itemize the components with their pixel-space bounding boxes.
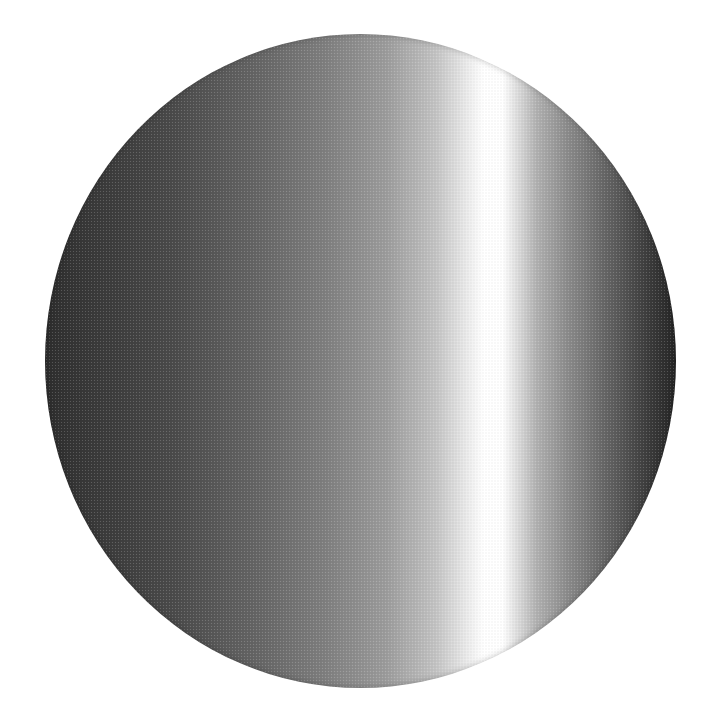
disc-edge-shading [45,34,676,688]
image-description: Halftone-shaded disc with horizontal gra… [0,0,1,1]
shaded-disc [45,34,676,688]
canvas: Halftone-shaded disc with horizontal gra… [0,0,719,724]
